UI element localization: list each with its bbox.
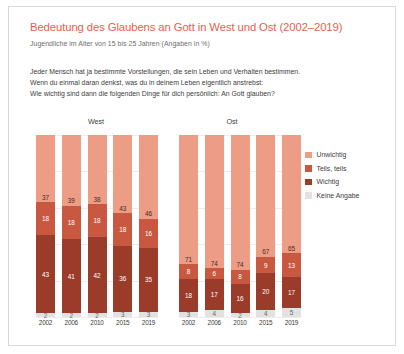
chart-subtitle: Jugendliche im Alter von 15 bis 25 Jahre… <box>30 39 380 49</box>
segment-value-label: 5 <box>290 309 293 316</box>
segment-ost-2010-wichtig[interactable]: 16 <box>231 284 250 313</box>
legend-label: Keine Angabe <box>317 192 360 199</box>
segment-value-label: 9 <box>264 262 267 269</box>
segment-value-label: 18 <box>119 226 126 233</box>
segment-west-2002-unwichtig[interactable]: 37 <box>36 135 55 202</box>
segment-value-label: 16 <box>145 230 152 237</box>
bar-west-2015[interactable]: 4318363 <box>113 135 132 317</box>
segment-value-label: 18 <box>68 219 75 226</box>
segment-value-label: 46 <box>145 210 152 217</box>
legend-item-unwichtig[interactable]: Unwichtig <box>305 148 391 162</box>
panel-label-west: West <box>41 117 151 126</box>
segment-ost-2015-unwichtig[interactable]: 67 <box>256 135 275 257</box>
segment-west-2006-teilsteils[interactable]: 18 <box>62 206 81 239</box>
segment-ost-2002-keineangabe[interactable]: 3 <box>179 312 198 317</box>
segment-value-label: 36 <box>119 275 126 282</box>
segment-west-2019-keineangabe[interactable]: 3 <box>139 312 158 317</box>
segment-west-2006-wichtig[interactable]: 41 <box>62 239 81 314</box>
legend-label: Teils, teils <box>317 165 347 172</box>
segment-ost-2002-unwichtig[interactable]: 71 <box>179 135 198 264</box>
segment-ost-2019-unwichtig[interactable]: 65 <box>282 135 301 253</box>
segment-ost-2015-keineangabe[interactable]: 4 <box>256 310 275 317</box>
segment-value-label: 17 <box>288 289 295 296</box>
segment-value-label: 42 <box>94 272 101 279</box>
segment-value-label: 67 <box>262 248 269 255</box>
x-axis-west: 20022006201020152019 <box>36 319 158 331</box>
x-tick-ost-2015: 2015 <box>256 319 275 331</box>
legend-item-keineangabe[interactable]: Keine Angabe <box>305 189 391 203</box>
bar-ost-2019[interactable]: 6513175 <box>282 135 301 317</box>
x-tick-west-2002: 2002 <box>36 319 55 331</box>
segment-west-2006-keineangabe[interactable]: 2 <box>62 313 81 317</box>
chart-legend: UnwichtigTeils, teilsWichtigKeine Angabe <box>305 148 391 202</box>
legend-item-wichtig[interactable]: Wichtig <box>305 175 391 189</box>
segment-ost-2015-wichtig[interactable]: 20 <box>256 273 275 309</box>
legend-swatch-icon <box>305 165 312 172</box>
legend-item-teilsteils[interactable]: Teils, teils <box>305 162 391 176</box>
segment-ost-2015-teilsteils[interactable]: 9 <box>256 257 275 273</box>
segment-west-2002-wichtig[interactable]: 43 <box>36 235 55 313</box>
bar-west-2019[interactable]: 4616353 <box>139 135 158 317</box>
x-tick-west-2010: 2010 <box>88 319 107 331</box>
bar-west-2002[interactable]: 3718432 <box>36 135 55 317</box>
segment-west-2019-unwichtig[interactable]: 46 <box>139 135 158 219</box>
segment-value-label: 71 <box>185 256 192 263</box>
segment-west-2019-teilsteils[interactable]: 16 <box>139 219 158 248</box>
bar-ost-2006[interactable]: 746174 <box>205 135 224 317</box>
segment-value-label: 13 <box>288 262 295 269</box>
bar-ost-2002[interactable]: 718183 <box>179 135 198 317</box>
x-tick-ost-2019: 2019 <box>282 319 301 331</box>
segment-ost-2006-wichtig[interactable]: 17 <box>205 279 224 310</box>
segment-ost-2002-teilsteils[interactable]: 8 <box>179 264 198 279</box>
segment-ost-2010-keineangabe[interactable]: 2 <box>231 313 250 317</box>
segment-value-label: 43 <box>42 271 49 278</box>
segment-value-label: 74 <box>237 261 244 268</box>
segment-ost-2002-wichtig[interactable]: 18 <box>179 279 198 312</box>
segment-ost-2006-teilsteils[interactable]: 6 <box>205 268 224 279</box>
x-tick-west-2006: 2006 <box>62 319 81 331</box>
segment-value-label: 2 <box>70 312 73 319</box>
segment-value-label: 4 <box>264 310 267 317</box>
bar-west-2006[interactable]: 3918412 <box>62 135 81 317</box>
panel-label-ost: Ost <box>177 117 287 126</box>
x-tick-ost-2002: 2002 <box>179 319 198 331</box>
segment-value-label: 74 <box>211 260 218 267</box>
segment-west-2002-keineangabe[interactable]: 2 <box>36 313 55 317</box>
plot-area-west: 37184323918412381842243183634616353 <box>36 135 158 317</box>
segment-west-2019-wichtig[interactable]: 35 <box>139 248 158 312</box>
legend-swatch-icon <box>305 192 312 199</box>
plot-area-ost: 7181837461747481626792046513175 <box>179 135 301 317</box>
x-tick-ost-2006: 2006 <box>205 319 224 331</box>
segment-west-2015-unwichtig[interactable]: 43 <box>113 135 132 213</box>
segment-ost-2010-teilsteils[interactable]: 8 <box>231 270 250 285</box>
segment-west-2015-wichtig[interactable]: 36 <box>113 246 132 312</box>
chart-page: Bedeutung des Glaubens an Gott in West u… <box>0 0 404 354</box>
segment-ost-2006-unwichtig[interactable]: 74 <box>205 135 224 268</box>
survey-question: Jeder Mensch hat ja bestimmte Vorstellun… <box>30 66 380 100</box>
segment-value-label: 6 <box>213 270 216 277</box>
segment-value-label: 35 <box>145 276 152 283</box>
segment-west-2015-teilsteils[interactable]: 18 <box>113 213 132 246</box>
segment-ost-2010-unwichtig[interactable]: 74 <box>231 135 250 270</box>
segment-ost-2019-keineangabe[interactable]: 5 <box>282 308 301 317</box>
segment-value-label: 3 <box>121 311 124 318</box>
survey-question-line-3: Wie wichtig sind dann die folgenden Ding… <box>30 88 380 99</box>
legend-label: Unwichtig <box>317 151 347 158</box>
segment-west-2015-keineangabe[interactable]: 3 <box>113 312 132 317</box>
segment-ost-2019-teilsteils[interactable]: 13 <box>282 253 301 277</box>
segment-ost-2006-keineangabe[interactable]: 4 <box>205 310 224 317</box>
segment-west-2006-unwichtig[interactable]: 39 <box>62 135 81 206</box>
survey-question-line-2: Wenn du einmal daran denkst, was du in d… <box>30 77 380 88</box>
segment-west-2010-keineangabe[interactable]: 2 <box>88 313 107 317</box>
segment-west-2010-wichtig[interactable]: 42 <box>88 237 107 313</box>
bar-west-2010[interactable]: 3818422 <box>88 135 107 317</box>
bar-ost-2015[interactable]: 679204 <box>256 135 275 317</box>
segment-value-label: 18 <box>42 215 49 222</box>
segment-west-2002-teilsteils[interactable]: 18 <box>36 202 55 235</box>
segment-value-label: 16 <box>237 295 244 302</box>
chart-frame: Bedeutung des Glaubens an Gott in West u… <box>8 6 396 346</box>
segment-west-2010-unwichtig[interactable]: 38 <box>88 135 107 204</box>
bar-ost-2010[interactable]: 748162 <box>231 135 250 317</box>
segment-ost-2019-wichtig[interactable]: 17 <box>282 277 301 308</box>
segment-west-2010-teilsteils[interactable]: 18 <box>88 204 107 237</box>
